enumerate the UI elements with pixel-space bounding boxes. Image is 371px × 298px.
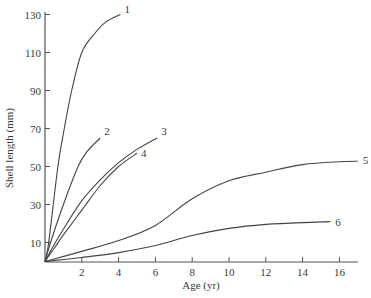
curve-label-2: 2 <box>104 125 110 137</box>
curve-label-4: 4 <box>141 147 147 159</box>
y-axis: 1030507090110130 Shell length (mm) <box>3 9 50 263</box>
growth-curve-6 <box>45 222 330 262</box>
growth-curve-5 <box>45 161 358 261</box>
y-tick-label: 130 <box>25 9 42 21</box>
curve-label-5: 5 <box>363 154 369 166</box>
curve-label-1: 1 <box>124 3 130 15</box>
x-tick-label: 6 <box>153 266 159 278</box>
growth-curve-4 <box>45 153 137 261</box>
y-axis-label: Shell length (mm) <box>3 108 16 188</box>
y-tick-label: 90 <box>30 85 42 97</box>
y-tick-label: 70 <box>30 123 42 135</box>
y-tick-label: 50 <box>30 161 42 173</box>
x-tick-label: 4 <box>116 266 122 278</box>
x-tick-label: 16 <box>334 266 346 278</box>
x-tick-label: 8 <box>189 266 195 278</box>
x-axis-label: Age (yr) <box>182 279 220 292</box>
growth-curve-chart: 1030507090110130 Shell length (mm) 24681… <box>0 0 371 298</box>
y-tick-label: 110 <box>25 47 42 59</box>
y-tick-label: 10 <box>30 237 42 249</box>
x-tick-label: 2 <box>79 266 85 278</box>
x-ticks: 246810121416 <box>79 257 345 278</box>
x-tick-label: 14 <box>297 266 309 278</box>
y-tick-label: 30 <box>30 199 42 211</box>
growth-curves: 123456 <box>45 3 369 262</box>
x-axis: 246810121416 Age (yr) <box>45 257 358 292</box>
x-tick-label: 10 <box>224 266 236 278</box>
y-ticks: 1030507090110130 <box>25 9 51 249</box>
x-tick-label: 12 <box>260 266 271 278</box>
curve-label-3: 3 <box>161 125 167 137</box>
curve-label-6: 6 <box>335 216 341 228</box>
